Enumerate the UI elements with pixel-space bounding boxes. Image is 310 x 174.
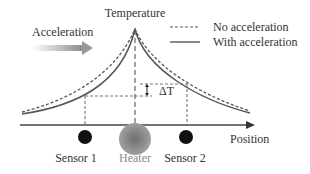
acceleration-label: Acceleration: [32, 25, 93, 39]
heater-sensor-diagram: Acceleration Temperature No acceleration…: [0, 0, 310, 174]
heater-label: Heater: [119, 151, 151, 165]
x-axis-arrow-icon: [246, 121, 255, 129]
legend-with-acceleration: With acceleration: [213, 35, 297, 49]
legend-no-acceleration: No acceleration: [213, 20, 289, 34]
acceleration-arrow-icon: [33, 41, 93, 55]
sensor-2-label: Sensor 2: [164, 151, 206, 165]
delta-t-label: ΔT: [159, 84, 175, 98]
sensor-1-icon: [78, 130, 92, 144]
sensor-2-icon: [179, 130, 193, 144]
y-axis-label: Temperature: [105, 6, 165, 20]
diagram-canvas: Acceleration Temperature No acceleration…: [0, 0, 310, 174]
sensor-1-label: Sensor 1: [55, 151, 97, 165]
x-axis-label: Position: [230, 132, 269, 146]
legend: No acceleration With acceleration: [170, 20, 297, 49]
delta-t-arrow-icon: [145, 84, 149, 96]
